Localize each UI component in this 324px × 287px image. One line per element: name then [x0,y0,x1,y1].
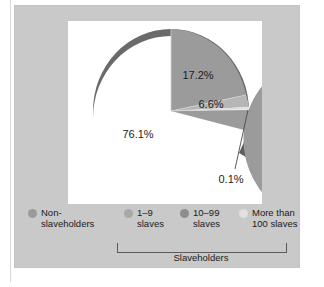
pie-label-6: 6.6% [198,98,223,110]
legend-item-1-9-slaves[interactable]: 1–9 slaves [124,207,164,229]
legend-swatch-icon-2 [180,209,189,218]
legend-label-1: 1–9 slaves [137,207,164,229]
figure-root: 17.2% 6.6% 76.1% 0.1% Non- slaveholders … [0,0,324,287]
slaveholders-caption: Slaveholders [117,252,285,263]
legend-item-100-plus-slaves[interactable]: More than 100 slaves [239,207,297,229]
legend-label-0: Non- slaveholders [41,207,94,229]
pie-label-76: 76.1% [122,128,153,140]
legend-item-non-slaveholders[interactable]: Non- slaveholders [28,207,94,229]
legend-item-10-99-slaves[interactable]: 10–99 slaves [180,207,220,229]
legend-swatch-icon-3 [239,209,248,218]
legend-swatch-icon-1 [124,209,133,218]
plot-area: 17.2% 6.6% 76.1% 0.1% [68,21,262,204]
legend-swatch-icon-0 [28,209,37,218]
pie-label-01: 0.1% [218,173,243,185]
legend-label-3: More than 100 slaves [252,207,297,229]
legend-label-2: 10–99 slaves [193,207,220,229]
legend: Non- slaveholders 1–9 slaves 10–99 slave… [14,205,300,245]
pie-label-17: 17.2% [182,69,213,81]
pie-chart: 17.2% 6.6% 76.1% 0.1% [68,21,262,204]
